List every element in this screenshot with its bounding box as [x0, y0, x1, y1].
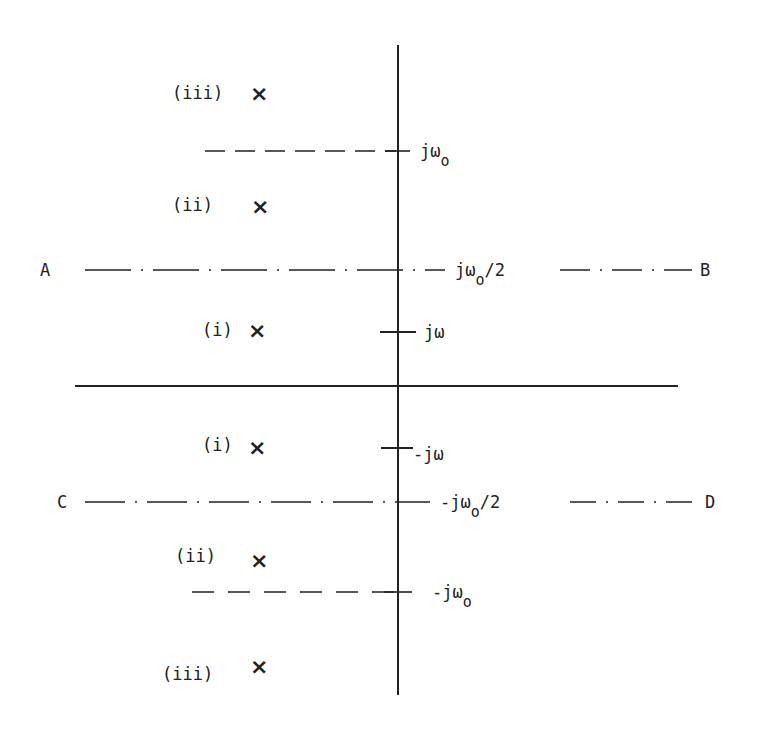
upper-dashdot-label: jωo/2	[455, 260, 505, 289]
label-d: D	[705, 492, 715, 512]
pole-x-icon: ×	[248, 318, 266, 343]
pole-iii-lower: (iii) ×	[162, 654, 268, 684]
lower-dashed-line: -jωo	[192, 582, 472, 611]
tick-neg-jw: -jω	[381, 444, 444, 464]
pole-x-icon: ×	[250, 81, 268, 106]
lower-dashed-label: -jωo	[432, 582, 472, 611]
pole-ii-lower: (ii) ×	[175, 546, 268, 573]
lower-dashdot-label: -jωo/2	[440, 492, 500, 521]
svg-text:(iii): (iii)	[172, 83, 223, 103]
label-c: C	[57, 492, 67, 512]
s-plane-diagram: jωo A jωo/2 B jω -jω C -jωo/2 D -jωo (ii…	[0, 0, 762, 739]
pole-x-icon: ×	[250, 654, 268, 679]
label-a: A	[40, 260, 50, 280]
upper-dashed-line: jωo	[205, 141, 450, 170]
lower-dashdot-line: C -jωo/2 D	[57, 492, 715, 521]
tick-jw: jω	[380, 322, 444, 342]
pole-ii-upper: (ii) ×	[172, 194, 269, 219]
label-b: B	[700, 260, 710, 280]
upper-dashed-label: jωo	[420, 141, 450, 170]
svg-text:(i): (i)	[202, 435, 233, 455]
svg-text:(ii): (ii)	[175, 546, 216, 566]
svg-text:(ii): (ii)	[172, 195, 213, 215]
svg-text:jω: jω	[424, 322, 444, 342]
upper-dashdot-line: A jωo/2 B	[40, 260, 710, 289]
pole-x-icon: ×	[250, 548, 268, 573]
pole-x-icon: ×	[248, 435, 266, 460]
pole-iii-upper: (iii) ×	[172, 81, 268, 106]
svg-text:-jω: -jω	[413, 444, 444, 464]
svg-text:(iii): (iii)	[162, 664, 213, 684]
svg-text:(i): (i)	[202, 320, 233, 340]
pole-x-icon: ×	[251, 194, 269, 219]
pole-i-upper: (i) ×	[202, 318, 266, 343]
pole-i-lower: (i) ×	[202, 435, 266, 460]
